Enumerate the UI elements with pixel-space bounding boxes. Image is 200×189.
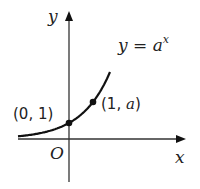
x-axis-arrowhead [176, 135, 186, 143]
point-1-a-label: (1, a) [101, 95, 141, 113]
function-label-lhs: y [117, 35, 128, 55]
function-label-exponent: x [163, 33, 170, 46]
function-label-base: a [153, 35, 163, 55]
function-label: y = ax [117, 33, 170, 55]
point-1-a [90, 99, 97, 106]
point-1-a-label-open: (1, [101, 95, 126, 113]
origin-label: O [50, 143, 64, 163]
x-axis-label: x [175, 147, 185, 167]
point-1-a-label-var: a [126, 95, 135, 113]
function-label-eq: = [128, 35, 153, 55]
point-1-a-label-close: ) [135, 95, 141, 113]
point-0-1 [66, 120, 73, 127]
y-axis-label: y [47, 6, 58, 26]
exponential-graph: y x O (0, 1) (1, a) y = ax [0, 0, 200, 189]
point-0-1-label: (0, 1) [13, 105, 53, 123]
y-axis-arrowhead [65, 11, 73, 21]
